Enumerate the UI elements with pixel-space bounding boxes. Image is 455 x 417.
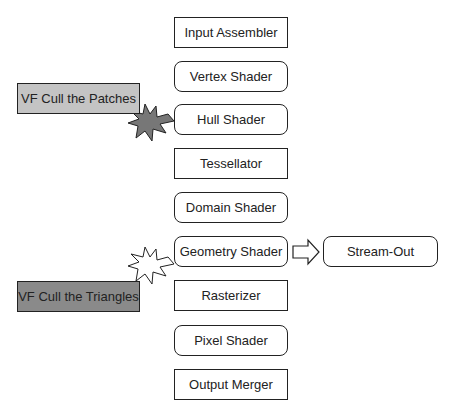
stage-tessellator: Tessellator bbox=[174, 148, 288, 179]
cull-triangles-text: VF Cull the Triangles bbox=[18, 289, 139, 304]
stage-vertex-shader: Vertex Shader bbox=[174, 61, 288, 92]
cull-triangles-label: VF Cull the Triangles bbox=[17, 281, 140, 312]
starburst-light-icon bbox=[128, 247, 174, 284]
cull-patches-label: VF Cull the Patches bbox=[17, 83, 140, 114]
stage-rasterizer: Rasterizer bbox=[174, 280, 288, 311]
cull-patches-text: VF Cull the Patches bbox=[21, 91, 136, 106]
stage-input-assembler: Input Assembler bbox=[174, 17, 288, 48]
stage-output-merger: Output Merger bbox=[174, 369, 288, 400]
stage-domain-shader: Domain Shader bbox=[174, 192, 288, 223]
stage-hull-shader: Hull Shader bbox=[174, 104, 288, 135]
arrow-right-icon bbox=[293, 240, 319, 264]
stage-pixel-shader: Pixel Shader bbox=[174, 325, 288, 356]
stage-geometry-shader: Geometry Shader bbox=[174, 236, 288, 267]
stage-stream-out: Stream-Out bbox=[323, 236, 438, 267]
